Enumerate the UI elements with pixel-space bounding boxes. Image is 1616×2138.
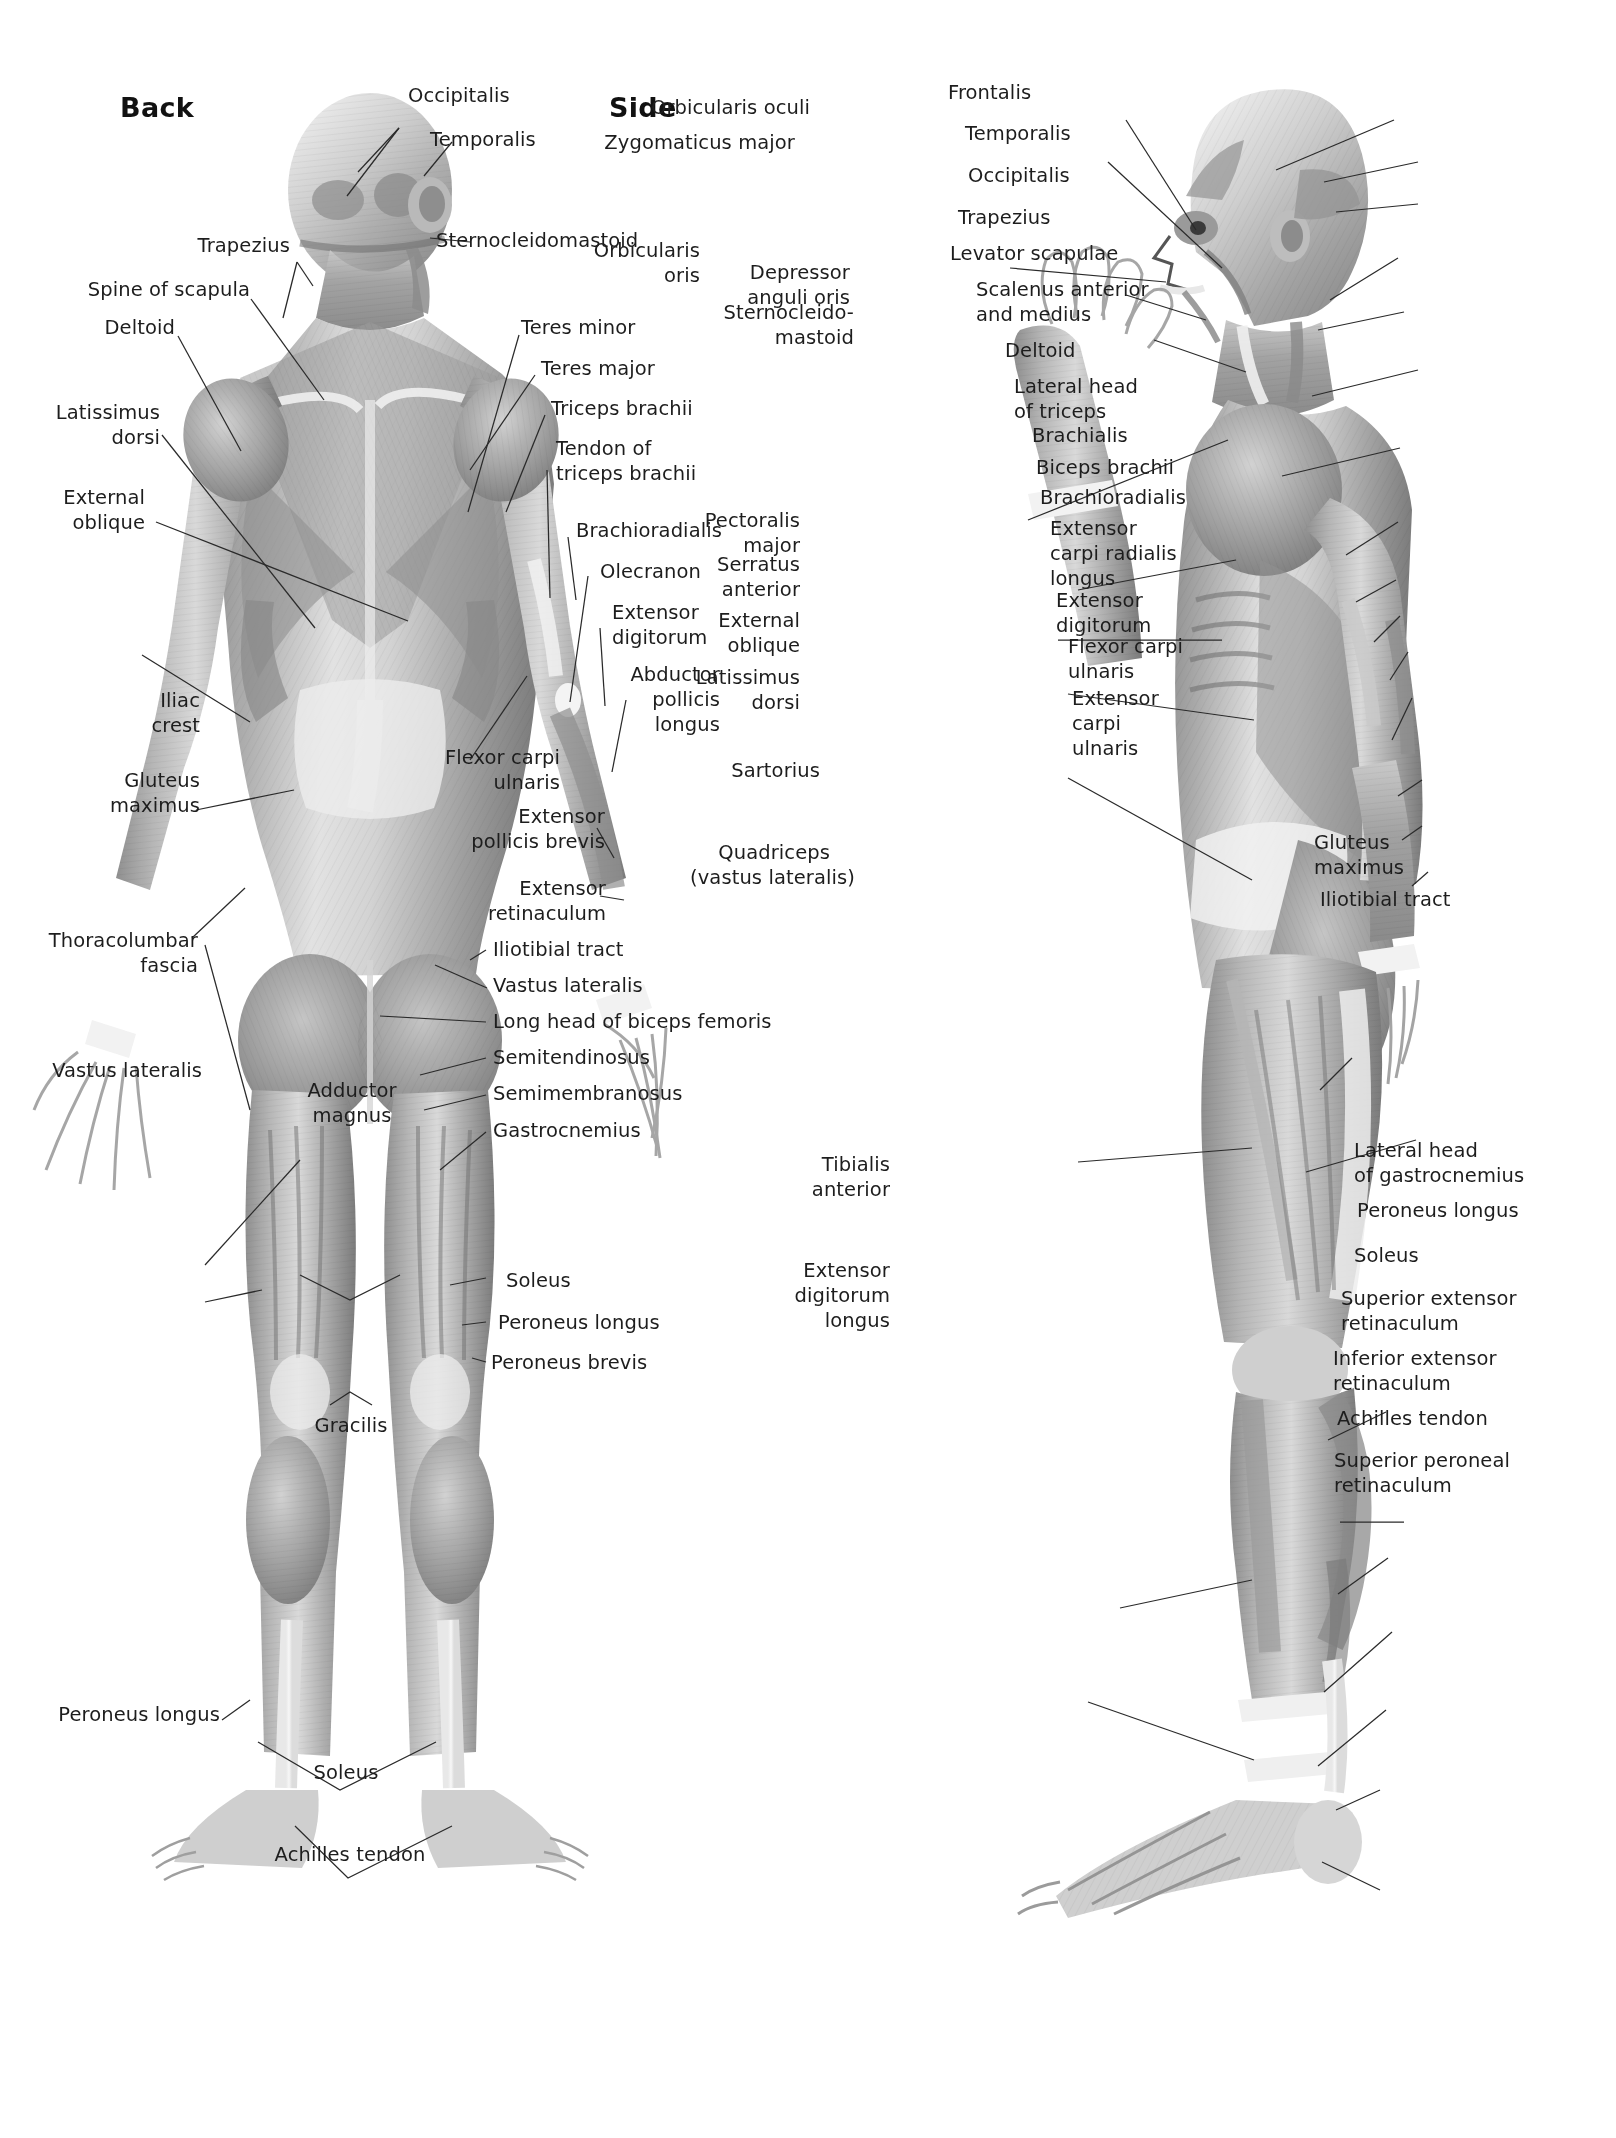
label-side-scalenus: Scalenus anterior and medius [976,277,1149,327]
label-side-iliotibial-tract: Iliotibial tract [1320,887,1451,912]
label-side-zygomaticus-major: Zygomaticus major [600,130,795,155]
label-back-vastus-lateralis: Vastus lateralis [0,1058,202,1083]
label-back-temporalis: Temporalis [430,127,536,152]
label-back-occipitalis: Occipitalis [408,83,510,108]
anatomy-plate: Back Side Trapezius Spine of scapula Del… [0,0,1616,2138]
label-side-orbicularis-oris: Orbicularis oris [570,238,700,288]
label-back-gluteus-maximus: Gluteus maximus [40,768,200,818]
label-side-brachioradialis: Brachioradialis [1040,485,1186,510]
label-back-thoracolumbar-fascia: Thoracolumbar fascia [0,928,198,978]
label-back-trapezius: Trapezius [70,233,290,258]
figure-title-back: Back [120,92,194,123]
label-back-tendon-of-triceps: Tendon of triceps brachii [556,436,696,486]
label-side-achilles-tendon: Achilles tendon [1337,1406,1488,1431]
label-side-peroneus-longus: Peroneus longus [1357,1198,1519,1223]
label-side-sternocleidomastoid: Sternocleido- mastoid [722,300,854,350]
label-side-extensor-carpi-ulnaris: Extensor carpi ulnaris [1072,686,1159,761]
label-side-latissimus-dorsi: Latissimus dorsi [690,665,800,715]
label-side-orbicularis-oculi: Orbicularis oculi [640,95,810,120]
label-back-teres-major: Teres major [541,356,655,381]
label-side-occipitalis: Occipitalis [968,163,1070,188]
label-side-serratus-anterior: Serratus anterior [690,552,800,602]
label-side-flexor-carpi-ulnaris: Flexor carpi ulnaris [1068,634,1183,684]
label-back-soleus-right: Soleus [506,1268,571,1293]
label-back-soleus-left: Soleus [286,1760,406,1785]
label-back-iliotibial-tract: Iliotibial tract [493,937,624,962]
label-back-semimembranosus: Semimembranosus [493,1081,683,1106]
label-back-triceps-brachii: Triceps brachii [551,396,693,421]
label-side-superior-extensor-retinaculum: Superior extensor retinaculum [1341,1286,1517,1336]
label-back-extensor-retinaculum: Extensor retinaculum [420,876,606,926]
label-side-lateral-head-gastrocnemius: Lateral head of gastrocnemius [1354,1138,1524,1188]
label-side-trapezius: Trapezius [958,205,1050,230]
label-back-spine-of-scapula: Spine of scapula [20,277,250,302]
label-back-flexor-carpi-ulnaris: Flexor carpi ulnaris [400,745,560,795]
label-side-gluteus-maximus: Gluteus maximus [1314,830,1404,880]
label-side-sartorius: Sartorius [700,758,820,783]
label-side-pectoralis-major: Pectoralis major [690,508,800,558]
label-side-inferior-extensor-retinaculum: Inferior extensor retinaculum [1333,1346,1497,1396]
label-side-frontalis: Frontalis [948,80,1031,105]
label-side-biceps-brachii: Biceps brachii [1036,455,1174,480]
label-side-brachialis: Brachialis [1032,423,1128,448]
label-side-external-oblique: External oblique [690,608,800,658]
label-back-olecranon: Olecranon [600,559,701,584]
label-back-vastus-lateralis-r: Vastus lateralis [493,973,643,998]
label-side-lateral-head-triceps: Lateral head of triceps [1014,374,1138,424]
label-back-long-head-biceps-femoris: Long head of biceps femoris [493,1009,772,1034]
label-back-extensor-pollicis-brevis: Extensor pollicis brevis [390,804,605,854]
label-back-latissimus-dorsi: Latissimus dorsi [0,400,160,450]
label-back-gracilis: Gracilis [288,1413,414,1438]
label-back-peroneus-brevis: Peroneus brevis [491,1350,647,1375]
label-side-soleus: Soleus [1354,1243,1419,1268]
label-side-extensor-digitorum: Extensor digitorum [1056,588,1151,638]
label-back-semitendinosus: Semitendinosus [493,1045,650,1070]
label-back-gastrocnemius: Gastrocnemius [493,1118,641,1143]
label-back-deltoid: Deltoid [20,315,175,340]
label-side-quadriceps: Quadriceps (vastus lateralis) [690,840,830,890]
label-back-external-oblique: External oblique [0,485,145,535]
label-back-peroneus-longus-right: Peroneus longus [498,1310,660,1335]
label-back-teres-minor: Teres minor [521,315,635,340]
label-side-extensor-digitorum-longus: Extensor digitorum longus [760,1258,890,1333]
label-side-tibialis-anterior: Tibialis anterior [780,1152,890,1202]
label-side-temporalis: Temporalis [965,121,1071,146]
label-side-levator-scapulae: Levator scapulae [950,241,1118,266]
label-back-achilles-tendon: Achilles tendon [240,1842,460,1867]
label-back-iliac-crest: Iliac crest [60,688,200,738]
label-back-peroneus-longus: Peroneus longus [0,1702,220,1727]
label-back-adductor-magnus: Adductor magnus [282,1078,422,1128]
label-side-extensor-carpi-radialis-longus: Extensor carpi radialis longus [1050,516,1177,591]
side-figure [1014,89,1423,1918]
label-side-superior-peroneal-retinaculum: Superior peroneal retinaculum [1334,1448,1510,1498]
label-side-deltoid: Deltoid [1005,338,1076,363]
